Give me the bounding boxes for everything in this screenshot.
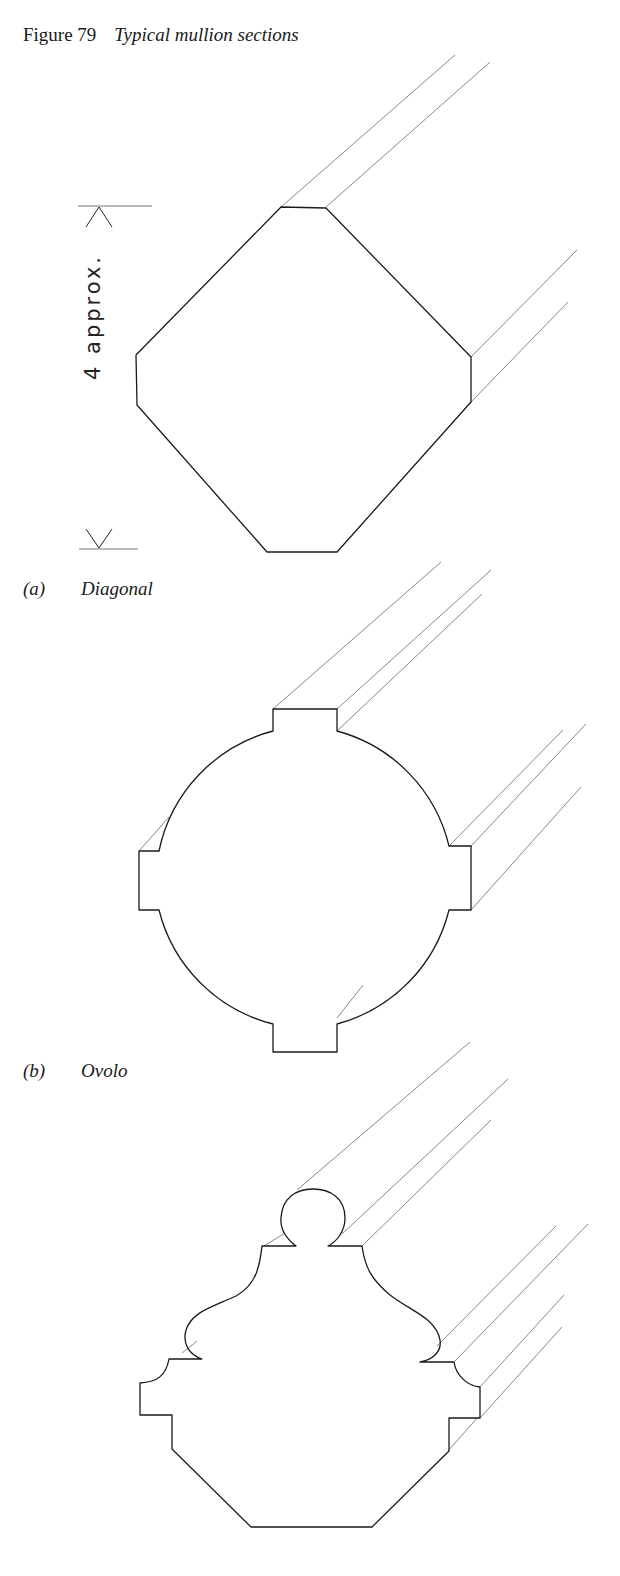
- bead-ovolo-section: [140, 1042, 588, 1527]
- diagonal-section: [136, 55, 577, 552]
- section-label-a: (a)Diagonal: [23, 578, 153, 600]
- dimension-label: 4 approx.: [81, 254, 105, 380]
- section-name: Ovolo: [81, 1060, 127, 1081]
- section-tag: (b): [23, 1060, 81, 1082]
- section-name: Diagonal: [81, 578, 153, 599]
- ovolo-section: [139, 562, 586, 1052]
- mullion-sections-drawing: [0, 0, 620, 1576]
- section-tag: (a): [23, 578, 81, 600]
- section-label-b: (b)Ovolo: [23, 1060, 127, 1082]
